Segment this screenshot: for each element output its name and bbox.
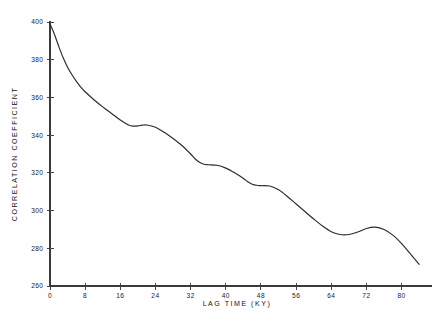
x-tick-label: 80 <box>398 292 406 299</box>
x-tick-label: 24 <box>151 292 159 299</box>
x-tick-label: 0 <box>48 292 52 299</box>
y-tick-labels: 260280300320340360380400 <box>31 18 43 289</box>
x-tick-labels: 08162432404856647280 <box>48 292 406 299</box>
correlation-line-chart: 08162432404856647280 2602803003203403603… <box>0 0 444 322</box>
x-tick-label: 40 <box>222 292 230 299</box>
x-tick-label: 72 <box>362 292 370 299</box>
y-tick-label: 340 <box>31 132 43 139</box>
x-tick-label: 32 <box>187 292 195 299</box>
y-tick-label: 400 <box>31 18 43 25</box>
x-tick-label: 8 <box>83 292 87 299</box>
y-tick-label: 300 <box>31 207 43 214</box>
ticks-group <box>47 22 402 290</box>
y-tick-label: 260 <box>31 282 43 289</box>
y-tick-label: 280 <box>31 245 43 252</box>
x-tick-label: 56 <box>292 292 300 299</box>
data-series-line <box>50 24 419 264</box>
y-tick-label: 360 <box>31 94 43 101</box>
chart-figure: 08162432404856647280 2602803003203403603… <box>0 0 444 322</box>
x-tick-label: 16 <box>116 292 124 299</box>
axes-group <box>50 21 432 286</box>
x-tick-label: 48 <box>257 292 265 299</box>
data-series-group <box>50 24 419 264</box>
y-axis-title: CORRELATION COEFFICIENT <box>11 87 19 221</box>
x-tick-label: 64 <box>327 292 335 299</box>
x-axis-title: LAG TIME (KY) <box>203 300 272 308</box>
y-tick-label: 320 <box>31 169 43 176</box>
y-tick-label: 380 <box>31 56 43 63</box>
